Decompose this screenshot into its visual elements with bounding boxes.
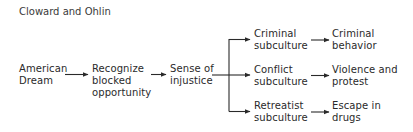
connector-lines	[0, 0, 413, 132]
